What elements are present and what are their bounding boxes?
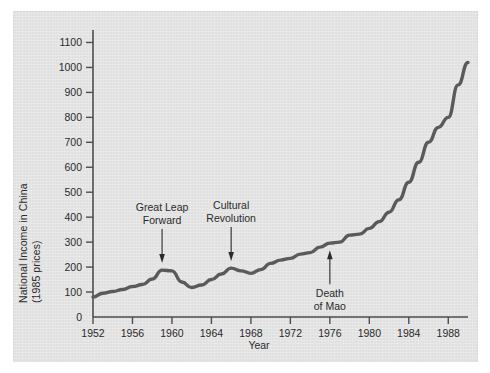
annotation-death-of-mao: Deathof Mao bbox=[314, 287, 346, 312]
annotation-cultural-revolution: CulturalRevolution bbox=[206, 199, 256, 224]
data-series-line bbox=[93, 62, 468, 297]
annotation-arrow-head bbox=[327, 250, 333, 259]
x-tick-marks bbox=[93, 317, 448, 324]
annotation-line-1: Great Leap bbox=[136, 201, 189, 214]
chart-figure: 010020030040050060070080090010001100 195… bbox=[0, 0, 490, 373]
annotation-line-1: Cultural bbox=[206, 199, 256, 212]
y-tick-label: 1100 bbox=[33, 37, 82, 48]
annotation-arrow-head bbox=[159, 254, 165, 263]
annotation-arrows bbox=[159, 227, 332, 284]
annotation-line-2: of Mao bbox=[314, 300, 346, 313]
y-tick-label: 900 bbox=[33, 87, 82, 98]
y-axis-title: National Income in China (1985 prices) bbox=[29, 111, 45, 291]
annotation-line-2: Forward bbox=[136, 214, 189, 227]
y-tick-label: 0 bbox=[33, 312, 82, 323]
x-axis-title: Year bbox=[248, 339, 269, 351]
x-tick-label: 1988 bbox=[423, 328, 473, 339]
chart-panel: 010020030040050060070080090010001100 195… bbox=[13, 11, 478, 362]
y-tick-label: 1000 bbox=[33, 62, 82, 73]
y-tick-marks bbox=[86, 42, 93, 292]
annotation-line-2: Revolution bbox=[206, 212, 256, 225]
annotation-arrow-head bbox=[228, 252, 234, 261]
y-axis-title-line1: National Income in China bbox=[17, 183, 29, 303]
annotation-great-leap-forward: Great LeapForward bbox=[136, 201, 189, 226]
annotation-line-1: Death bbox=[314, 287, 346, 300]
y-axis-title-line2: (1985 prices) bbox=[30, 240, 42, 303]
chart-plot-area bbox=[13, 11, 478, 362]
